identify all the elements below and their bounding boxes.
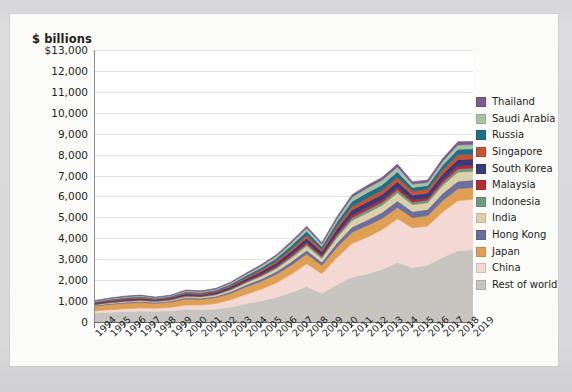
legend-label: Thailand [492,97,535,107]
legend-label: China [492,263,521,273]
y-axis-tick-13000: $13,000 [45,44,88,56]
legend-item-malaysia[interactable]: Malaysia [476,177,566,194]
legend-label: Singapore [492,147,542,157]
legend-label: Saudi Arabia [492,114,555,124]
y-axis-tick-8000: 8,000 [58,149,88,161]
y-axis-tick-9000: 9,000 [58,128,88,140]
legend-swatch-icon [476,130,486,140]
legend-item-saudi-arabia[interactable]: Saudi Arabia [476,111,566,128]
y-axis-tick-5000: 5,000 [58,211,88,223]
y-axis-tick-11000: 11,000 [51,86,88,98]
legend-swatch-icon [476,197,486,207]
y-axis-tick-labels: 01,0002,0003,0004,0005,0006,0007,0008,00… [32,50,92,322]
legend-item-china[interactable]: China [476,260,566,277]
y-axis-tick-1000: 1,000 [58,295,88,307]
legend-item-japan[interactable]: Japan [476,243,566,260]
y-axis-tick-4000: 4,000 [58,232,88,244]
legend-swatch-icon [476,114,486,124]
chart-legend: ThailandSaudi ArabiaRussiaSingaporeSouth… [476,94,566,293]
chart-card: $ billions 01,0002,0003,0004,0005,0006,0… [10,14,558,366]
legend-item-india[interactable]: India [476,210,566,227]
y-axis-tick-12000: 12,000 [51,65,88,77]
legend-item-rest-of-world[interactable]: Rest of world [476,277,566,294]
legend-item-south-korea[interactable]: South Korea [476,160,566,177]
legend-item-russia[interactable]: Russia [476,127,566,144]
legend-item-thailand[interactable]: Thailand [476,94,566,111]
axis-area: 01,0002,0003,0004,0005,0006,0007,0008,00… [32,50,472,340]
legend-swatch-icon [476,164,486,174]
chart-page: $ billions 01,0002,0003,0004,0005,0006,0… [0,0,572,392]
legend-swatch-icon [476,263,486,273]
chart-plot-area: $ billions 01,0002,0003,0004,0005,0006,0… [10,14,558,366]
legend-label: South Korea [492,164,553,174]
legend-swatch-icon [476,97,486,107]
legend-label: Russia [492,130,524,140]
legend-swatch-icon [476,180,486,190]
legend-label: India [492,213,517,223]
legend-label: Malaysia [492,180,536,190]
legend-swatch-icon [476,147,486,157]
legend-item-singapore[interactable]: Singapore [476,144,566,161]
legend-label: Japan [492,247,520,257]
y-axis-tick-0: 0 [81,316,88,328]
legend-item-indonesia[interactable]: Indonesia [476,194,566,211]
legend-swatch-icon [476,280,486,290]
y-axis-tick-6000: 6,000 [58,190,88,202]
stacked-area-plot [94,50,473,322]
y-axis-tick-10000: 10,000 [51,107,88,119]
area-series-svg [95,50,473,322]
legend-label: Rest of world [492,280,557,290]
x-axis-tick-labels: 1994199519961997199819992000200120022003… [94,331,494,391]
y-axis-tick-2000: 2,000 [58,274,88,286]
legend-swatch-icon [476,213,486,223]
y-axis-tick-7000: 7,000 [58,170,88,182]
legend-item-hong-kong[interactable]: Hong Kong [476,227,566,244]
legend-swatch-icon [476,230,486,240]
legend-label: Hong Kong [492,230,546,240]
legend-label: Indonesia [492,197,540,207]
y-axis-tick-3000: 3,000 [58,253,88,265]
legend-swatch-icon [476,247,486,257]
